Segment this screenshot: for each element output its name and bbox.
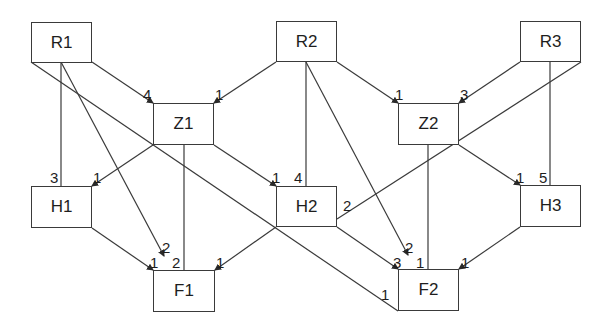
- edge-r2-z2: [337, 62, 398, 103]
- edge-weight-label: 1: [93, 170, 101, 185]
- node-h3: H3: [520, 185, 581, 227]
- edge-weight-label: 3: [460, 87, 468, 102]
- edge-weight-label: 1: [215, 87, 223, 102]
- edge-weight-label: 2: [343, 198, 351, 213]
- edge-weight-label: 2: [162, 240, 170, 255]
- edge-weight-label: 1: [461, 255, 469, 270]
- edge-weight-label: 2: [172, 255, 180, 270]
- edge-weight-label: 3: [50, 170, 58, 185]
- node-r1: R1: [31, 22, 92, 63]
- node-f1: F1: [153, 270, 215, 312]
- edge-weight-label: 1: [150, 255, 158, 270]
- node-label: R2: [296, 32, 318, 52]
- edge-weight-label: 1: [272, 170, 280, 185]
- edge-weight-label: 4: [143, 87, 151, 102]
- node-label: Z1: [174, 114, 194, 134]
- node-label: R1: [51, 33, 73, 53]
- edge-weight-label: 2: [405, 240, 413, 255]
- node-r3: R3: [520, 21, 581, 62]
- node-h1: H1: [31, 186, 92, 228]
- edge-h2-f2: [337, 227, 398, 269]
- node-label: R3: [540, 32, 562, 52]
- node-label: H2: [296, 197, 318, 217]
- edge-z1-h2: [214, 145, 276, 186]
- edge-weight-label: 1: [381, 287, 389, 302]
- edge-z2-h3: [459, 145, 520, 185]
- edge-weight-label: 1: [395, 87, 403, 102]
- node-label: H3: [540, 196, 562, 216]
- edge-h1-f1: [92, 228, 153, 270]
- node-f2: F2: [398, 269, 459, 311]
- node-label: H1: [51, 197, 73, 217]
- node-r2: R2: [276, 21, 337, 62]
- node-label: F2: [419, 280, 439, 300]
- node-h2: H2: [276, 186, 337, 227]
- edge-weight-label: 1: [516, 170, 524, 185]
- edge-weight-label: 5: [539, 170, 547, 185]
- edge-weight-label: 1: [416, 255, 424, 270]
- diagram-canvas: R1R2R3Z1Z2H1H2H3F1F2 4113311415222111213…: [0, 0, 613, 336]
- node-z1: Z1: [153, 103, 214, 145]
- node-label: Z2: [419, 114, 439, 134]
- node-z2: Z2: [398, 103, 459, 145]
- node-label: F1: [174, 281, 194, 301]
- edge-weight-label: 3: [393, 255, 401, 270]
- edge-weight-label: 4: [294, 170, 302, 185]
- edge-weight-label: 1: [216, 255, 224, 270]
